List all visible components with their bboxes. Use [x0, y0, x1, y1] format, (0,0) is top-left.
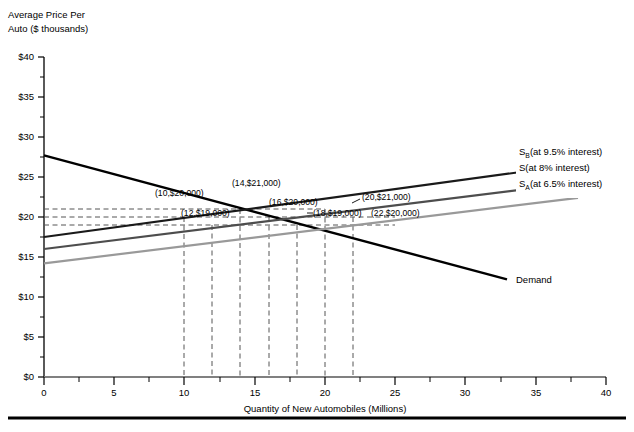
supply-curve-s	[44, 183, 578, 249]
x-axis-major-ticks	[44, 377, 606, 385]
y-axis-tick-labels: $0 $5 $10 $15 $20 $25 $30 $35 $40	[18, 51, 34, 382]
vertical-guide-lines	[184, 209, 353, 377]
x-tick-label: 40	[601, 387, 612, 398]
x-tick-label: 30	[460, 387, 471, 398]
y-axis-title-line1: Average Price Per	[8, 9, 85, 20]
y-tick-label: $5	[23, 331, 34, 342]
data-point-annotations: (10,$20,000) (12,$19,000) (14,$21,000) (…	[155, 178, 420, 218]
legend-item-s: S(at 8% interest)	[519, 162, 590, 173]
y-tick-label: $40	[18, 51, 34, 62]
x-tick-label: 0	[41, 387, 46, 398]
annotation-q18: (18,$19,000)	[313, 208, 362, 218]
legend: SB(at 9.5% interest) S(at 8% interest) S…	[519, 146, 602, 191]
y-tick-label: $25	[18, 171, 34, 182]
chart-figure: Average Price Per Auto ($ thousands)	[0, 0, 634, 432]
x-axis-title: Quantity of New Automobiles (Millions)	[244, 403, 407, 414]
annotation-q10: (10,$20,000)	[155, 188, 204, 198]
x-tick-label: 10	[179, 387, 190, 398]
x-axis-tick-labels: 0 5 10 15 20 25 30 35 40	[41, 387, 611, 398]
y-tick-label: $35	[18, 91, 34, 102]
annotation-q20: (20,$21,000)	[362, 192, 411, 202]
y-axis-title-line2: Auto ($ thousands)	[8, 23, 88, 34]
x-tick-label: 5	[111, 387, 116, 398]
annotation-q12: (12,$19,000)	[181, 208, 230, 218]
annotation-q16: (16,$20,000)	[269, 197, 318, 207]
price-quantity-chart: Average Price Per Auto ($ thousands)	[0, 0, 634, 432]
x-tick-label: 35	[531, 387, 542, 398]
y-axis-major-ticks	[38, 57, 44, 377]
y-tick-label: $10	[18, 291, 34, 302]
x-tick-label: 20	[320, 387, 331, 398]
annotation-q14: (14,$21,000)	[232, 178, 281, 188]
supply-curve-sa	[44, 198, 578, 264]
x-tick-label: 25	[390, 387, 401, 398]
demand-curve-label: Demand	[516, 274, 552, 285]
annotation-q22: (22,$20,000)	[371, 208, 420, 218]
y-tick-label: $0	[23, 371, 34, 382]
x-tick-label: 15	[250, 387, 261, 398]
y-tick-label: $20	[18, 211, 34, 222]
y-tick-label: $15	[18, 251, 34, 262]
y-tick-label: $30	[18, 131, 34, 142]
